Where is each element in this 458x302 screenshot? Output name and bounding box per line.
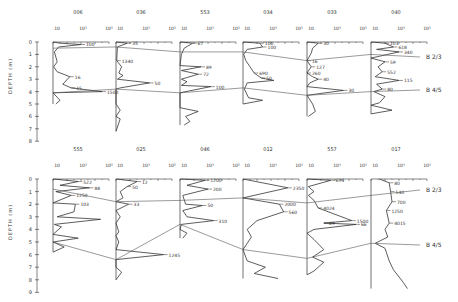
annotation-label: 310 <box>219 219 228 224</box>
x-tick-label: 10 <box>181 163 187 168</box>
boundary-line <box>53 189 420 203</box>
x-tick-label: 10³ <box>206 26 214 31</box>
annotation-label: 103 <box>80 202 89 207</box>
annotation-label: 88 <box>94 186 100 191</box>
depth-axis-label: DEPTH (m) <box>7 58 13 94</box>
profile-line-012 <box>243 179 288 279</box>
x-tick-label: 10³ <box>79 26 87 31</box>
panel-title-034: 034 <box>263 9 273 15</box>
x-tick-label: 10 <box>372 26 378 31</box>
annotation-label: 89 <box>206 65 212 70</box>
annotation-label: 1500 <box>107 90 119 95</box>
x-tick-label: 10⁵ <box>105 26 113 31</box>
depth-profile-figure: 012345678DEPTH (m)0061010³10⁵10016151500… <box>0 0 458 302</box>
x-tick-label: 10 <box>181 26 187 31</box>
annotation-label: 33 <box>134 202 140 207</box>
boundary-line <box>53 224 420 259</box>
x-tick-label: 10⁵ <box>168 163 176 168</box>
annotation-label: 72 <box>203 72 209 77</box>
x-tick-label: 10³ <box>269 163 277 168</box>
panel-title-040: 040 <box>391 9 401 15</box>
depth-tick-label: 5 <box>29 101 32 107</box>
x-tick-label: 10 <box>54 163 60 168</box>
x-tick-label: 10⁵ <box>295 26 303 31</box>
x-tick-label: 10 <box>117 163 123 168</box>
annotation-label: 260 <box>312 71 321 76</box>
profile-line-046 <box>180 179 214 238</box>
x-tick-label: 10³ <box>269 26 277 31</box>
x-tick-label: 10⁵ <box>232 26 240 31</box>
x-tick-label: 10³ <box>397 26 405 31</box>
depth-tick-label: 4 <box>29 89 32 95</box>
x-tick-label: 10⁵ <box>359 26 367 31</box>
annotation-label: 50 <box>132 185 138 190</box>
depth-tick-label: 2 <box>29 64 32 70</box>
annotation-label: 100 <box>268 45 277 50</box>
annotation-label: 59 <box>390 60 396 65</box>
x-tick-label: 10³ <box>333 163 341 168</box>
x-tick-label: 10 <box>308 163 314 168</box>
annotation-label: 127 <box>316 65 325 70</box>
x-tick-label: 10³ <box>333 26 341 31</box>
annotation-label: 1250 <box>391 209 403 214</box>
x-tick-label: 10³ <box>142 163 150 168</box>
annotation-label: 694 <box>336 178 345 183</box>
depth-tick-label: 2 <box>29 201 32 207</box>
depth-tick-label: 6 <box>29 113 32 119</box>
annotation-label: 2350 <box>293 186 305 191</box>
x-tick-label: 10 <box>308 26 314 31</box>
annotation-label: 100 <box>86 42 95 47</box>
profile-line-040 <box>371 42 399 114</box>
annotation-label: 40 <box>323 77 329 82</box>
depth-tick-label: 1 <box>29 189 32 195</box>
profile-line-036 <box>116 42 150 131</box>
profile-line-025 <box>116 179 164 280</box>
boundary-line <box>53 47 420 61</box>
boundary-label: B 4/5 <box>426 86 442 93</box>
depth-tick-label: 7 <box>29 264 32 270</box>
x-tick-label: 10 <box>117 26 123 31</box>
depth-tick-label: 3 <box>29 76 32 82</box>
x-tick-label: 10³ <box>397 163 405 168</box>
boundary-label: B 2/3 <box>426 53 442 60</box>
depth-tick-label: 5 <box>29 239 32 245</box>
panel-title-012: 012 <box>263 146 273 152</box>
boundary-label: B 4/5 <box>426 241 442 248</box>
depth-tick-label: 3 <box>29 214 32 220</box>
panel-title-557: 557 <box>327 146 337 152</box>
annotation-label: 340 <box>404 50 413 55</box>
depth-tick-label: 0 <box>29 39 32 45</box>
annotation-label: 552 <box>387 70 396 75</box>
annotation-label: 66 <box>361 222 367 227</box>
annotation-label: 1340 <box>122 59 134 64</box>
depth-tick-label: 9 <box>29 289 32 295</box>
profile-line-553 <box>180 42 211 125</box>
annotation-label: 50 <box>266 76 272 81</box>
profile-line-017 <box>375 179 407 289</box>
annotation-label: 2000 <box>284 202 296 207</box>
annotation-label: 30 <box>323 41 329 46</box>
annotation-label: 522 <box>83 180 92 185</box>
annotation-label: 80 <box>394 181 400 186</box>
annotation-label: 35 <box>132 41 138 46</box>
x-tick-label: 10 <box>54 26 60 31</box>
annotation-label: 1200 <box>210 178 222 183</box>
x-tick-label: 10⁵ <box>423 26 431 31</box>
x-tick-label: 10⁵ <box>359 163 367 168</box>
x-tick-label: 10⁵ <box>105 163 113 168</box>
annotation-label: 560 <box>289 210 298 215</box>
x-tick-label: 10 <box>244 163 250 168</box>
annotation-label: 50 <box>155 81 161 86</box>
depth-tick-label: 8 <box>29 277 32 283</box>
x-tick-label: 10⁵ <box>168 26 176 31</box>
annotation-label: 4015 <box>394 221 406 226</box>
annotation-label: 700 <box>397 200 406 205</box>
x-tick-label: 10 <box>244 26 250 31</box>
annotation-label: 80 <box>387 87 393 92</box>
x-tick-label: 10³ <box>206 163 214 168</box>
x-tick-label: 10³ <box>79 163 87 168</box>
annotation-label: 12 <box>142 180 148 185</box>
panel-title-033: 033 <box>327 9 337 15</box>
depth-tick-label: 4 <box>29 226 32 232</box>
panel-title-553: 553 <box>200 9 210 15</box>
